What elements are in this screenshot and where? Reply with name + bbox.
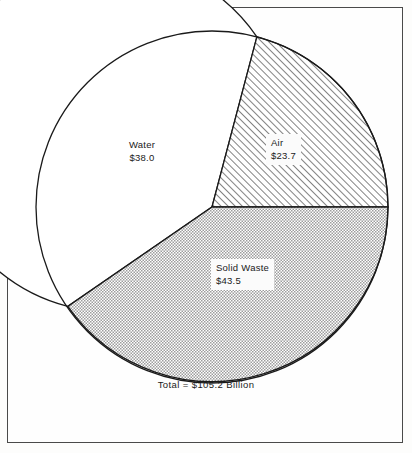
slice-label-water-value: $38.0: [112, 151, 172, 164]
slice-label-solid-waste-value: $43.5: [216, 274, 269, 287]
slice-label-water-name: Water: [112, 138, 172, 151]
slice-label-solid-waste: Solid Waste $43.5: [211, 259, 274, 290]
slice-label-air: Air $23.7: [266, 134, 301, 165]
slice-label-air-value: $23.7: [271, 149, 296, 162]
pie-chart: Water $38.0 Air $23.7 Solid Waste $43.5 …: [0, 0, 412, 453]
slice-label-water: Water $38.0: [112, 138, 172, 164]
slice-label-solid-waste-name: Solid Waste: [216, 261, 269, 274]
slice-label-air-name: Air: [271, 136, 296, 149]
chart-total-caption: Total = $105.2 Billion: [0, 379, 412, 390]
page-root: Water $38.0 Air $23.7 Solid Waste $43.5 …: [0, 0, 412, 453]
